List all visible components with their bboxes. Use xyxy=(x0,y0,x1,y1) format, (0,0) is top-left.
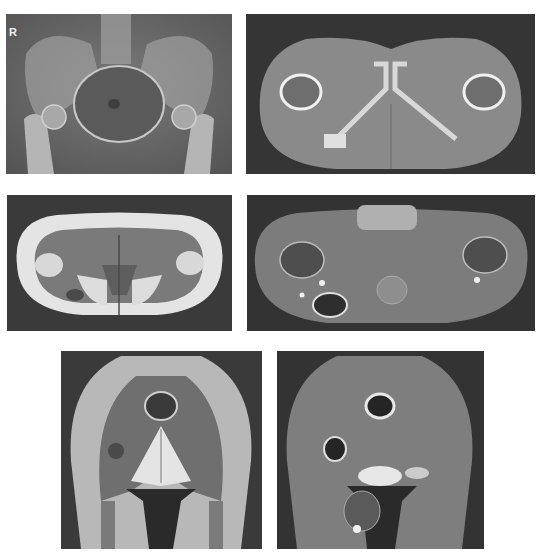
mri-axial-t1-image xyxy=(7,195,232,331)
mri-coronal-stir-image xyxy=(277,351,484,549)
mri-axial-t1-graphic xyxy=(7,195,232,331)
ct-axial-graphic xyxy=(246,14,535,174)
mri-coronal-t1-graphic xyxy=(61,351,262,549)
xray-pelvis-image: R xyxy=(6,14,232,174)
xray-pelvis-graphic xyxy=(6,14,232,174)
mri-axial-stir-graphic xyxy=(247,195,535,331)
mri-axial-stir-image xyxy=(247,195,535,331)
mri-coronal-stir-graphic xyxy=(277,351,484,549)
mri-coronal-t1-image xyxy=(61,351,262,549)
ct-axial-image xyxy=(246,14,535,174)
side-marker-label: R xyxy=(9,26,17,38)
